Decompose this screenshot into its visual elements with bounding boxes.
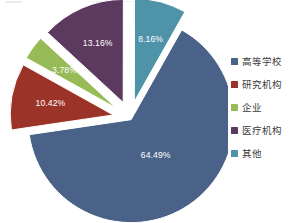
legend-swatch-icon (231, 150, 238, 157)
legend-item-label: 其他 (242, 149, 262, 159)
legend-item-4[interactable]: 医疗机构 (231, 119, 296, 142)
legend-item-label: 医疗机构 (242, 126, 282, 136)
pie-data-label-1: 64.49% (141, 150, 171, 160)
legend-swatch-icon (231, 104, 238, 111)
legend-item-5[interactable]: 其他 (231, 142, 296, 165)
pie-plot-area: 64.49%10.42%3.78%13.16%8.16% (0, 0, 228, 223)
pie-data-label-2: 10.42% (36, 98, 66, 108)
legend-item-label: 研究机构 (242, 80, 282, 90)
pie-data-label-5: 8.16% (138, 34, 163, 44)
legend-item-3[interactable]: 企业 (231, 96, 296, 119)
legend-item-label: 高等学校 (242, 57, 282, 67)
legend-swatch-icon (231, 58, 238, 65)
legend-swatch-icon (231, 127, 238, 134)
legend-swatch-icon (231, 81, 238, 88)
legend-item-1[interactable]: 高等学校 (231, 50, 296, 73)
legend-item-2[interactable]: 研究机构 (231, 73, 296, 96)
pie-chart-figure: 64.49%10.42%3.78%13.16%8.16% 高等学校研究机构企业医… (0, 0, 296, 223)
legend-item-label: 企业 (242, 103, 262, 113)
pie-data-label-3: 3.78% (52, 65, 77, 75)
pie-data-label-4: 13.16% (83, 38, 113, 48)
pie-svg: 64.49%10.42%3.78%13.16%8.16% (0, 0, 228, 223)
chart-legend: 高等学校研究机构企业医疗机构其他 (231, 50, 296, 165)
pie-slice-group (10, 0, 228, 223)
